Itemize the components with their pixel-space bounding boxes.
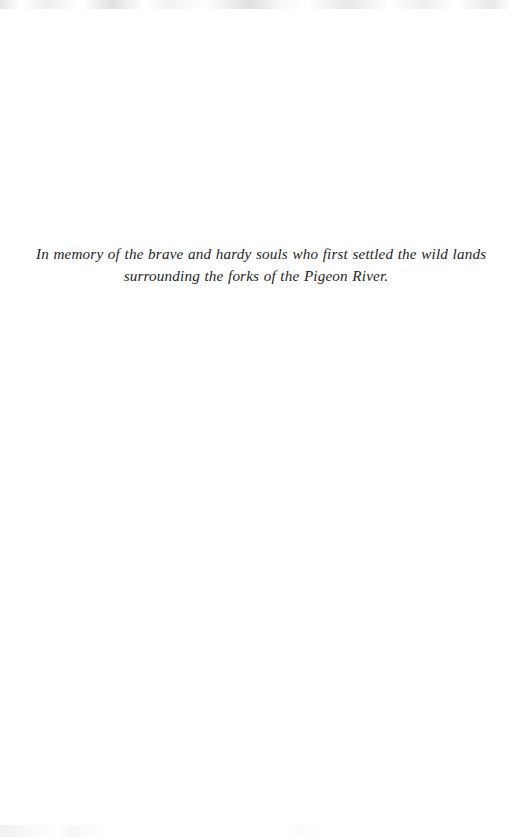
dedication-page: In memory of the brave and hardy souls w… <box>0 0 512 837</box>
scan-artifact-bottom-edge <box>0 825 512 837</box>
dedication-text-block: In memory of the brave and hardy souls w… <box>0 243 512 287</box>
dedication-line-1: In memory of the brave and hardy souls w… <box>36 243 476 265</box>
dedication-line-2: surrounding the forks of the Pigeon Rive… <box>36 265 476 287</box>
scan-artifact-top-edge <box>0 0 512 9</box>
